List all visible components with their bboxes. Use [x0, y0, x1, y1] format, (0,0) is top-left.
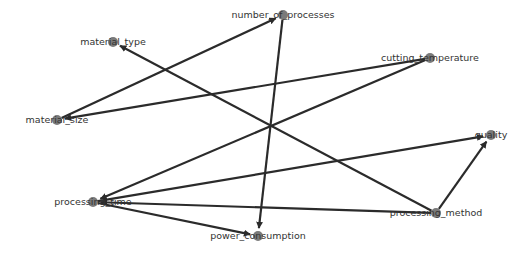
- edge-material-size-to-number-of-processes: [62, 18, 276, 118]
- node-label-cutting-temperature: cutting_temperature: [381, 52, 479, 63]
- edge-processing-method-to-quality: [439, 142, 487, 209]
- node-label-number-of-processes: number_of_processes: [231, 9, 334, 20]
- node-label-processing-time: processing_time: [54, 196, 132, 207]
- edge-processing-time-to-quality: [98, 136, 483, 201]
- node-label-power-consumption: power_consumption: [210, 230, 306, 241]
- edge-number-of-processes-to-power-consumption: [259, 20, 283, 228]
- node-label-material-type: material_type: [80, 36, 146, 47]
- causal-graph: number_of_processesmaterial_typecutting_…: [0, 0, 528, 257]
- edge-processing-method-to-processing-time: [101, 202, 431, 213]
- edge-cutting-temperature-to-processing-time: [100, 60, 425, 199]
- node-label-processing-method: processing_method: [390, 207, 483, 218]
- edge-cutting-temperature-to-material-size: [65, 59, 425, 119]
- node-label-quality: quality: [475, 129, 508, 140]
- node-label-material-size: material_size: [26, 114, 89, 125]
